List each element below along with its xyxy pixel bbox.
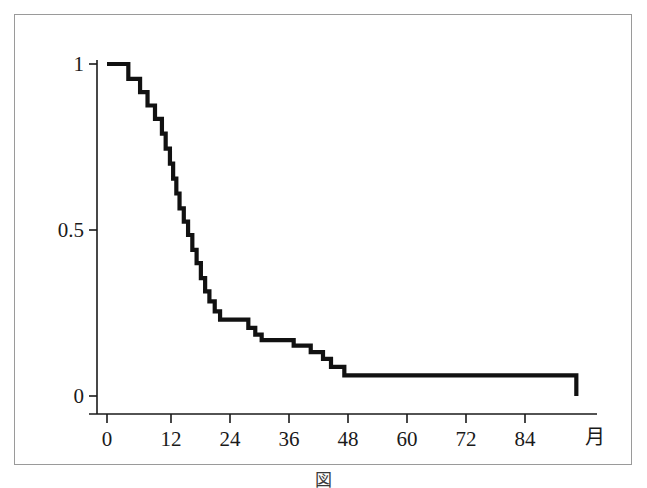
y-tick-label-0-5: 0.5 [58, 218, 84, 242]
x-tick-label-48: 48 [338, 427, 359, 451]
y-tick-label-1: 1 [74, 52, 85, 76]
x-tick-label-0: 0 [102, 427, 113, 451]
figure-page: 1 0.5 0 0 12 24 36 48 60 72 84 月 図 [0, 0, 647, 488]
x-tick-label-60: 60 [397, 427, 418, 451]
y-tick-label-0: 0 [74, 384, 85, 408]
figure-caption: 図 [0, 470, 647, 488]
survival-curve [107, 64, 576, 396]
x-tick-label-72: 72 [456, 427, 477, 451]
x-tick-label-36: 36 [279, 427, 300, 451]
survival-chart: 1 0.5 0 0 12 24 36 48 60 72 84 月 [0, 0, 647, 488]
x-tick-label-24: 24 [220, 427, 242, 451]
x-tick-label-12: 12 [161, 427, 182, 451]
x-axis-unit-label: 月 [585, 425, 605, 449]
x-tick-label-84: 84 [515, 427, 537, 451]
